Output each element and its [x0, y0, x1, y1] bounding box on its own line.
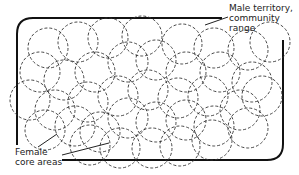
- female-core-area: [242, 76, 282, 116]
- female-core-area: [132, 128, 172, 168]
- female-core-area: [28, 28, 68, 68]
- female-core-area: [108, 42, 148, 82]
- female-core-area: [44, 60, 84, 100]
- female-core-area: [108, 98, 148, 138]
- male-territory-label-line2: community: [229, 13, 280, 23]
- territory-diagram: Male territory, community range Female c…: [0, 0, 299, 175]
- male-territory-border: [17, 18, 222, 145]
- female-core-area: [188, 76, 228, 116]
- female-core-label-line2: core areas: [15, 157, 62, 167]
- male-territory-border-right: [62, 40, 283, 160]
- female-core-area: [35, 90, 75, 130]
- female-core-area: [192, 120, 232, 160]
- female-core-area: [232, 62, 272, 102]
- female-core-pointer-1: [38, 134, 57, 147]
- female-core-area: [194, 28, 234, 68]
- male-territory-label-line1: Male territory,: [229, 3, 293, 13]
- female-core-label-line1: Female: [15, 147, 48, 157]
- female-core-area: [20, 52, 60, 92]
- male-territory-label-line3: range: [229, 23, 256, 33]
- female-core-areas: [10, 16, 290, 168]
- female-core-area: [58, 22, 98, 62]
- female-core-area: [194, 106, 234, 146]
- female-core-area: [166, 100, 206, 140]
